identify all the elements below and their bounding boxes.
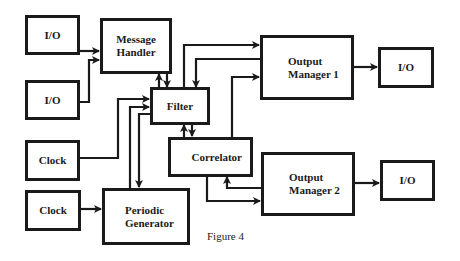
clock-label: Clock: [39, 154, 67, 167]
io-box-right-bottom: I/O: [380, 160, 435, 201]
correlator-label: Correlator: [192, 151, 243, 164]
block-diagram: I/O I/O Message Handler Filter Clock Clo…: [0, 0, 460, 261]
clock-box-bottom: Clock: [25, 190, 81, 231]
io-box-label: I/O: [45, 29, 61, 42]
io-box-label: I/O: [400, 174, 416, 187]
edge-om2-correlator: [227, 177, 261, 188]
output-manager-2-label: Output Manager 2: [289, 171, 340, 197]
output-manager-1-label: Output Manager 1: [288, 55, 339, 81]
periodic-generator-box: Periodic Generator: [102, 188, 190, 245]
io-box-right-top: I/O: [378, 47, 434, 88]
message-handler-label: Message Handler: [116, 33, 156, 59]
edge-correlator-om1: [232, 77, 259, 137]
periodic-generator-label: Periodic Generator: [125, 204, 174, 230]
io-box-label: I/O: [398, 61, 414, 74]
io-box-left-bottom: I/O: [25, 80, 80, 120]
edge-om1-filter: [196, 59, 260, 87]
filter-label: Filter: [167, 100, 193, 113]
io-box-left-top: I/O: [25, 15, 80, 55]
filter-box: Filter: [150, 87, 210, 125]
output-manager-2-box: Output Manager 2: [261, 152, 355, 216]
message-handler-box: Message Handler: [100, 18, 172, 74]
figure-caption: Figure 4: [207, 230, 244, 242]
output-manager-1-box: Output Manager 1: [260, 35, 354, 100]
correlator-box: Correlator: [168, 137, 253, 177]
edge-io2-msghandler: [79, 60, 99, 102]
edge-filter-periodic: [139, 114, 150, 187]
clock-label: Clock: [39, 204, 67, 217]
clock-box-top: Clock: [25, 140, 80, 181]
io-box-label: I/O: [45, 94, 61, 107]
